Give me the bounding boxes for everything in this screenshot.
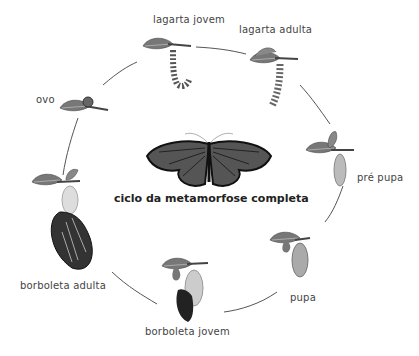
metamorphosis-diagram: lagarta jovem lagarta adulta ovo pré pup… [0, 0, 419, 356]
label-lagarta-jovem: lagarta jovem [153, 14, 225, 25]
diagram-title: ciclo da metamorfose completa [114, 192, 309, 205]
label-ovo: ovo [36, 94, 55, 105]
label-borboleta-jovem: borboleta jovem [145, 326, 230, 337]
label-pre-pupa: pré pupa [357, 172, 403, 183]
egg-icon [60, 97, 108, 111]
young-caterpillar-icon [143, 38, 191, 86]
label-pupa: pupa [290, 292, 316, 303]
adult-caterpillar-icon [250, 48, 298, 106]
pre-pupa-icon [306, 132, 354, 186]
adult-butterfly-icon [32, 169, 92, 269]
central-butterfly-icon [147, 133, 271, 186]
label-lagarta-adulta: lagarta adulta [239, 24, 312, 35]
label-borboleta-adulta: borboleta adulta [20, 280, 106, 291]
young-butterfly-icon [162, 258, 208, 322]
pupa-icon [270, 232, 310, 277]
